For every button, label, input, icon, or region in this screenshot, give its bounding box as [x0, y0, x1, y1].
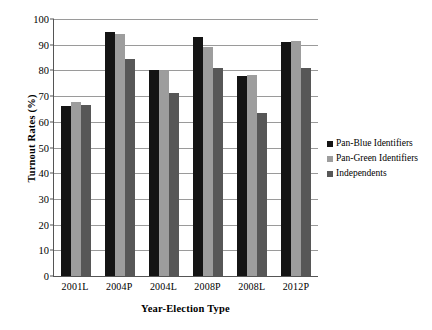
bar — [291, 41, 301, 276]
bar — [247, 75, 257, 276]
bar-group — [230, 19, 274, 276]
legend-label: Pan-Blue Identifiers — [336, 138, 413, 149]
bar — [61, 106, 71, 276]
y-axis-tick-label: 20 — [9, 219, 49, 230]
legend-item[interactable]: Pan-Blue Identifiers — [327, 138, 432, 149]
y-axis-tick-label: 80 — [9, 65, 49, 76]
y-axis-tick-label: 60 — [9, 116, 49, 127]
bar — [71, 102, 81, 276]
y-axis-tick-label: 30 — [9, 193, 49, 204]
y-axis-tick-label: 10 — [9, 245, 49, 256]
y-axis-tick-label: 70 — [9, 91, 49, 102]
bar — [237, 76, 247, 276]
x-axis-tick-label: 2008P — [186, 281, 230, 292]
x-axis-tick-label: 2001L — [53, 281, 97, 292]
legend-item[interactable]: Pan-Green Identifiers — [327, 153, 432, 164]
x-axis-tick-labels: 2001L2004P2004L2008P2008L2012P — [53, 281, 318, 292]
plot-area: 0102030405060708090100 — [53, 19, 318, 277]
bar-group — [186, 19, 230, 276]
legend-swatch-icon — [327, 141, 333, 147]
y-axis-tick-label: 100 — [9, 14, 49, 25]
bar — [159, 71, 169, 276]
legend-item[interactable]: Independents — [327, 168, 432, 179]
bar — [301, 68, 311, 276]
bar — [125, 59, 135, 276]
chart-legend: Pan-Blue IdentifiersPan-Green Identifier… — [327, 138, 432, 183]
bar — [193, 37, 203, 276]
bar — [115, 34, 125, 276]
bar — [281, 42, 291, 276]
y-axis-tick-label: 50 — [9, 142, 49, 153]
bar — [257, 113, 267, 276]
y-axis-tick-label: 0 — [9, 271, 49, 282]
bar — [169, 93, 179, 276]
bar — [213, 68, 223, 276]
y-axis-tick-label: 90 — [9, 39, 49, 50]
legend-label: Pan-Green Identifiers — [336, 153, 418, 164]
bar-group — [274, 19, 318, 276]
x-axis-tick-label: 2012P — [274, 281, 318, 292]
bar-group — [142, 19, 186, 276]
x-axis-tick-label: 2004P — [97, 281, 141, 292]
x-axis-title: Year-Election Type — [53, 303, 318, 314]
x-axis-tick-label: 2004L — [141, 281, 185, 292]
bar — [203, 47, 213, 276]
bar — [105, 32, 115, 276]
legend-swatch-icon — [327, 156, 333, 162]
bar-chart: Turnout Rates (%) 0102030405060708090100… — [0, 0, 432, 330]
y-axis-tick-label: 40 — [9, 168, 49, 179]
x-axis-tick-label: 2008L — [230, 281, 274, 292]
bar-groups — [54, 19, 318, 276]
bar — [81, 105, 91, 276]
legend-label: Independents — [336, 168, 387, 179]
bar — [149, 70, 159, 276]
legend-swatch-icon — [327, 171, 333, 177]
bar-group — [98, 19, 142, 276]
bar-group — [54, 19, 98, 276]
